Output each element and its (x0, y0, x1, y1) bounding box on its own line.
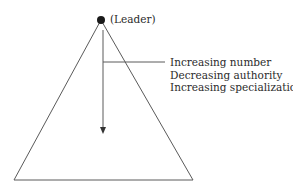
pyramid-diagram: (Leader) Increasing number Decreasing au… (0, 0, 293, 187)
descriptor-list: Increasing number Decreasing authority I… (170, 56, 293, 94)
pyramid-graphic (0, 0, 293, 187)
leader-label: (Leader) (110, 13, 156, 25)
descriptor-increasing-number: Increasing number (170, 56, 293, 69)
leader-dot-icon (97, 16, 105, 24)
descriptor-increasing-specialization: Increasing specialization (170, 81, 293, 94)
descriptor-decreasing-authority: Decreasing authority (170, 69, 293, 82)
down-arrow-head-icon (100, 127, 106, 134)
